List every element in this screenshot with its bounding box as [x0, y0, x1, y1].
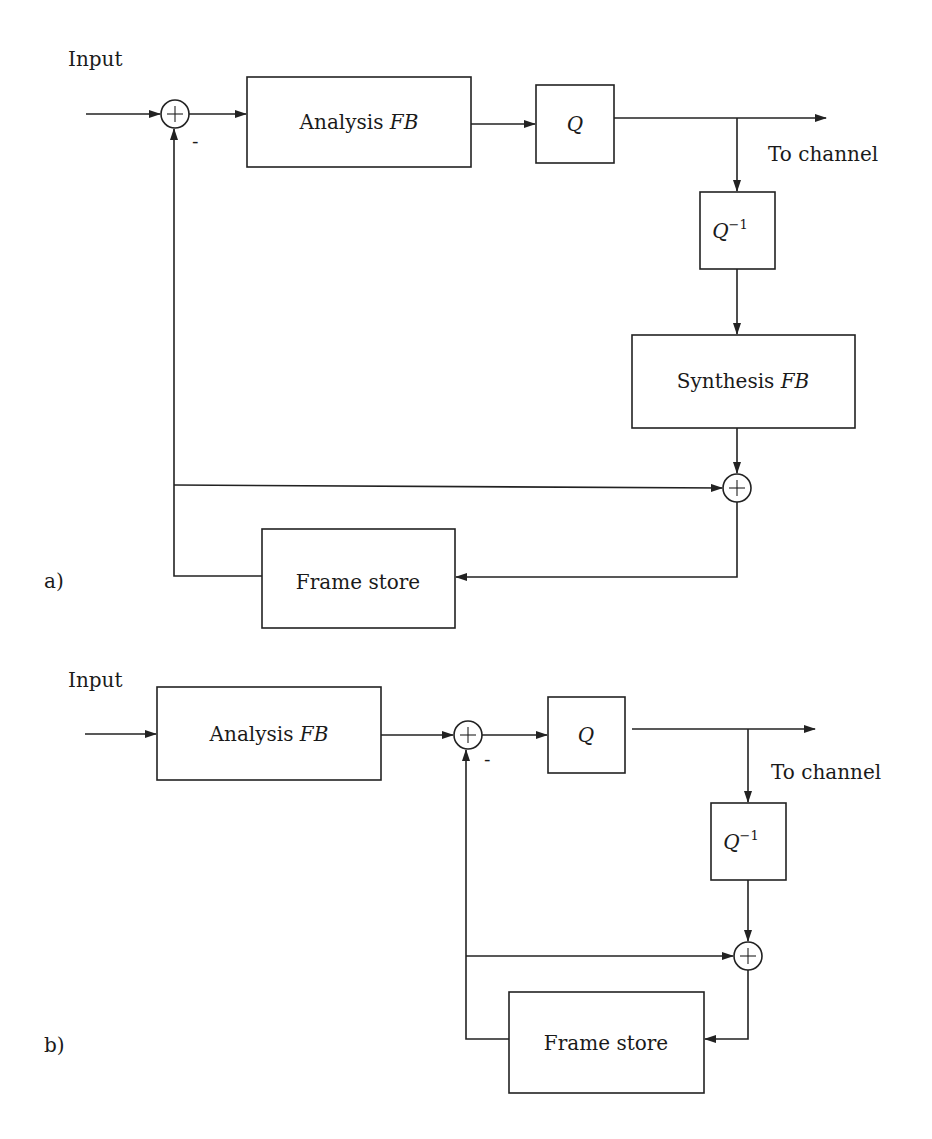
to-channel-label: To channel — [771, 760, 881, 784]
inverse-quantizer-block: Q−1 — [700, 192, 775, 269]
diagram-a: Input a) - Analysis FB Q To channel — [44, 47, 878, 628]
input-label: Input — [68, 47, 123, 71]
synthesis-filterbank-block: Synthesis FB — [632, 335, 855, 428]
frame-store-block: Frame store — [262, 529, 455, 628]
quantizer-block: Q — [536, 85, 614, 163]
adder-node — [723, 474, 751, 502]
svg-text:Frame store: Frame store — [296, 570, 420, 594]
minus-sign: - — [192, 130, 199, 151]
svg-text:Synthesis FB: Synthesis FB — [677, 369, 810, 393]
svg-text:Analysis FB: Analysis FB — [299, 110, 419, 134]
subtractor-node — [161, 100, 189, 128]
feedback-wire — [466, 750, 509, 1039]
diagram-b: Input b) Analysis FB - Q To channel — [44, 668, 881, 1093]
feedback-wire — [174, 129, 262, 576]
subtractor-node — [454, 721, 482, 749]
input-label: Input — [68, 668, 123, 692]
panel-label-a: a) — [44, 569, 64, 593]
svg-text:Q: Q — [567, 112, 583, 136]
panel-label-b: b) — [44, 1033, 65, 1057]
frame-store-block: Frame store — [509, 992, 704, 1093]
inverse-quantizer-block: Q−1 — [711, 803, 786, 880]
minus-sign: - — [484, 748, 491, 769]
to-channel-label: To channel — [768, 142, 878, 166]
quantizer-block: Q — [548, 697, 625, 773]
svg-text:Analysis FB: Analysis FB — [209, 722, 329, 746]
adder-node — [734, 942, 762, 970]
svg-text:Frame store: Frame store — [544, 1031, 668, 1055]
analysis-filterbank-block: Analysis FB — [157, 687, 381, 780]
svg-text:Q: Q — [578, 723, 594, 747]
analysis-filterbank-block: Analysis FB — [247, 77, 471, 167]
